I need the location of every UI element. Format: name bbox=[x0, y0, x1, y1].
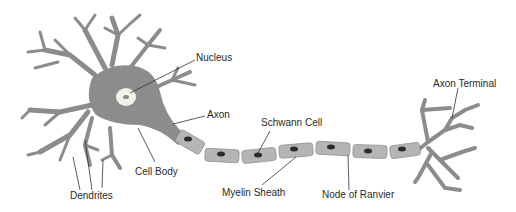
axon-terminal-shape bbox=[415, 100, 478, 190]
neuron-illustration bbox=[0, 0, 516, 212]
nucleolus-shape bbox=[123, 95, 129, 99]
neuron-diagram: Nucleus Axon Cell Body Dendrites Schwann… bbox=[0, 0, 516, 212]
axon-terminal-label: Axon Terminal bbox=[433, 79, 496, 89]
dendrites-label: Dendrites bbox=[70, 191, 113, 201]
schwann-cell-label: Schwann Cell bbox=[261, 118, 322, 128]
nucleus-label: Nucleus bbox=[196, 53, 232, 63]
myelin-sheath-shape bbox=[174, 129, 420, 164]
cell-body-label: Cell Body bbox=[135, 167, 178, 177]
node-of-ranvier-label: Node of Ranvier bbox=[322, 190, 394, 200]
myelin-sheath-label: Myelin Sheath bbox=[222, 188, 285, 198]
axon-label: Axon bbox=[207, 110, 230, 120]
